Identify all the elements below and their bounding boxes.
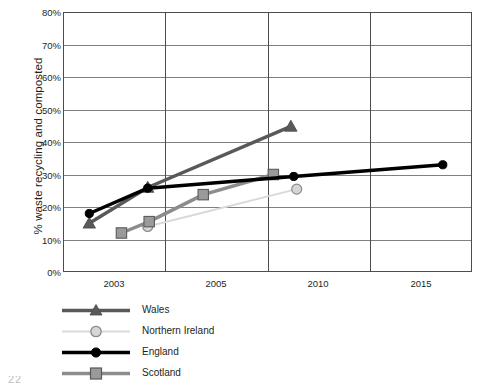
- legend-label: Northern Ireland: [142, 325, 214, 336]
- legend-item-northern-ireland[interactable]: Northern Ireland: [60, 321, 360, 342]
- legend-label: Wales: [142, 304, 169, 315]
- legend-swatch-triangle-icon: [60, 300, 132, 321]
- recycling-line-chart: % waste recycling and composted 0%10%20%…: [0, 0, 482, 388]
- series-line: [89, 126, 291, 223]
- series-wales: [83, 120, 297, 228]
- data-point-marker: [290, 172, 298, 180]
- series-data-layer: [63, 12, 472, 272]
- series-northern-ireland: [143, 184, 302, 231]
- y-axis-tick-label: 10%: [17, 234, 61, 245]
- series-line: [89, 165, 443, 214]
- y-axis-tick-label: 70%: [17, 39, 61, 50]
- legend-item-scotland[interactable]: Scotland: [60, 363, 360, 384]
- legend-swatch-circle-icon: [60, 342, 132, 363]
- chart-legend: WalesNorthern IrelandEnglandScotland: [60, 300, 360, 384]
- y-axis-tick-label: 60%: [17, 72, 61, 83]
- legend-label: Scotland: [142, 367, 181, 378]
- y-axis-tick-label: 20%: [17, 202, 61, 213]
- y-axis-tick-label: 50%: [17, 104, 61, 115]
- data-point-marker: [285, 120, 297, 131]
- x-axis-tick-label: 2005: [176, 278, 256, 289]
- data-point-marker: [439, 161, 447, 169]
- x-axis-tick-label: 2003: [74, 278, 154, 289]
- data-point-marker: [116, 228, 126, 238]
- data-point-marker: [198, 189, 208, 199]
- legend-item-wales[interactable]: Wales: [60, 300, 360, 321]
- data-point-marker: [144, 184, 152, 192]
- plot-area: [63, 12, 472, 272]
- data-point-marker: [144, 216, 154, 226]
- data-point-marker: [292, 184, 302, 194]
- legend-item-england[interactable]: England: [60, 342, 360, 363]
- y-axis-tick-label: 80%: [17, 7, 61, 18]
- x-axis-tick-label: 2015: [381, 278, 461, 289]
- legend-swatch-circle-icon: [60, 321, 132, 342]
- x-axis-tick-label: 2010: [278, 278, 358, 289]
- series-line: [148, 189, 297, 226]
- legend-swatch-square-icon: [60, 363, 132, 384]
- series-england: [85, 161, 447, 218]
- legend-label: England: [142, 346, 179, 357]
- page-number-artifact: 22: [8, 376, 22, 384]
- y-axis-tick-label: 30%: [17, 169, 61, 180]
- y-axis-tick-label: 0%: [17, 267, 61, 278]
- y-axis-tick-label: 40%: [17, 137, 61, 148]
- data-point-marker: [85, 209, 93, 217]
